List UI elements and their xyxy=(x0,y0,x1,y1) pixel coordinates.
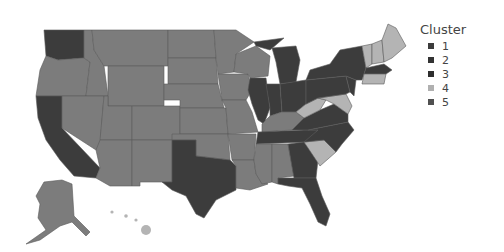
legend-label-5: 5 xyxy=(442,96,449,109)
state-arkansas[interactable] xyxy=(228,134,256,160)
state-iowa[interactable] xyxy=(218,74,252,100)
legend-swatch-3 xyxy=(428,71,434,77)
state-wyoming[interactable] xyxy=(108,66,164,106)
state-washington[interactable] xyxy=(44,30,84,60)
state-south-dakota[interactable] xyxy=(168,58,218,84)
legend-label-4: 4 xyxy=(442,82,449,95)
legend-label-3: 3 xyxy=(442,68,449,81)
legend-item-2[interactable]: 2 xyxy=(428,53,466,67)
legend-swatch-2 xyxy=(428,57,434,63)
state-nebraska[interactable] xyxy=(164,84,224,108)
legend-item-3[interactable]: 3 xyxy=(428,67,466,81)
legend-item-1[interactable]: 1 xyxy=(428,39,466,53)
legend-item-5[interactable]: 5 xyxy=(428,95,466,109)
state-maine[interactable] xyxy=(382,24,406,62)
legend-title: Cluster xyxy=(420,22,466,37)
legend-swatch-1 xyxy=(428,43,434,49)
state-north-dakota[interactable] xyxy=(168,30,216,58)
state-arizona[interactable] xyxy=(96,140,132,186)
state-connecticut[interactable] xyxy=(362,74,386,84)
state-montana[interactable] xyxy=(92,30,168,66)
us-choropleth-map xyxy=(0,0,410,252)
legend-swatch-5 xyxy=(428,99,434,105)
state-oregon[interactable] xyxy=(36,56,90,96)
state-florida[interactable] xyxy=(278,178,330,226)
state-alaska[interactable] xyxy=(26,180,90,244)
legend-label-2: 2 xyxy=(442,54,449,67)
state-new-york[interactable] xyxy=(306,46,366,80)
legend-swatch-4 xyxy=(428,85,434,91)
legend-label-1: 1 xyxy=(442,40,449,53)
state-hawaii[interactable] xyxy=(110,210,151,235)
legend-item-4[interactable]: 4 xyxy=(428,81,466,95)
legend: Cluster 1 2 3 4 5 xyxy=(420,22,466,109)
state-new-mexico[interactable] xyxy=(132,140,172,186)
state-kansas[interactable] xyxy=(180,108,228,134)
